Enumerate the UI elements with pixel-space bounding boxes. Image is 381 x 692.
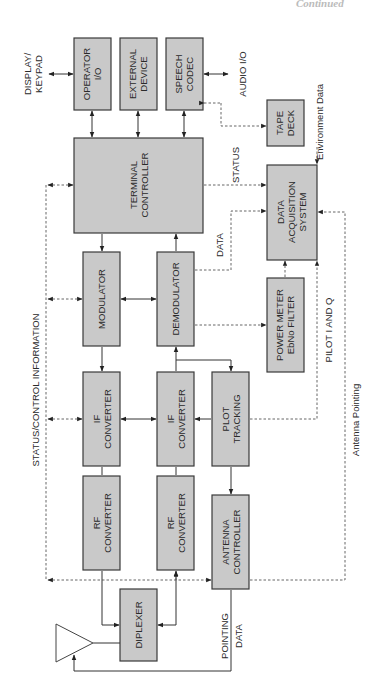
label-audio-io: AUDIO I/O bbox=[237, 51, 248, 96]
block-demodulator: DEMODULATOR bbox=[157, 252, 194, 346]
label-status: STATUS bbox=[230, 147, 241, 183]
block-external-device: EXTERNALDEVICE bbox=[120, 38, 157, 110]
label-data: DATA bbox=[214, 232, 225, 257]
block-antenna-controller: ANTENNACONTROLLER bbox=[212, 495, 249, 589]
label-environment-data: Environment Data bbox=[314, 83, 325, 160]
block-diplexer: DIPLEXER bbox=[120, 589, 157, 661]
svg-text:DEMODULATOR: DEMODULATOR bbox=[170, 262, 181, 335]
block-diagram: Continued OPERATORI/O EXTERNALDEVICE SPE… bbox=[0, 0, 381, 692]
block-rf-converter-rx: RFCONVERTER bbox=[157, 476, 194, 570]
svg-text:TERMINALCONTROLLER: TERMINALCONTROLLER bbox=[128, 152, 150, 217]
corner-continued-text: Continued bbox=[296, 0, 344, 9]
label-status-control-information: STATUS/CONTROL INFORMATION bbox=[30, 313, 41, 466]
block-tape-deck: TAPEDECK bbox=[267, 100, 304, 146]
block-power-meter-filter: POWER METEREbNo FILTER bbox=[267, 278, 304, 372]
label-antenna-pointing: Antenna Pointing bbox=[350, 384, 361, 456]
svg-text:DIPLEXER: DIPLEXER bbox=[133, 601, 144, 648]
svg-text:EXTERNALDEVICE: EXTERNALDEVICE bbox=[127, 49, 149, 99]
svg-text:MODULATOR: MODULATOR bbox=[96, 269, 107, 329]
block-plot-tracking: PLOTTRACKING bbox=[212, 372, 249, 466]
svg-text:POWER METEREbNo FILTER: POWER METEREbNo FILTER bbox=[274, 289, 296, 361]
block-speech-codec: SPEECHCODEC bbox=[166, 38, 203, 110]
block-if-converter-rx: IFCONVERTER bbox=[157, 372, 194, 466]
block-if-converter-tx: IFCONVERTER bbox=[83, 372, 120, 466]
block-rf-converter-tx: RFCONVERTER bbox=[83, 476, 120, 570]
svg-text:TAPEDECK: TAPEDECK bbox=[274, 109, 296, 136]
svg-text:SPEECHCODEC: SPEECHCODEC bbox=[173, 54, 195, 93]
label-pilot-i-and-q: PILOT I AND Q bbox=[323, 298, 334, 363]
block-modulator: MODULATOR bbox=[83, 252, 120, 346]
block-terminal-controller: TERMINALCONTROLLER bbox=[74, 138, 203, 233]
label-display-keypad: DISPLAY/KEYPAD bbox=[22, 53, 44, 95]
block-data-acquisition-system: DATAACQUISITIONSYSTEM bbox=[267, 165, 317, 260]
block-operator-io: OPERATORI/O bbox=[74, 38, 111, 110]
